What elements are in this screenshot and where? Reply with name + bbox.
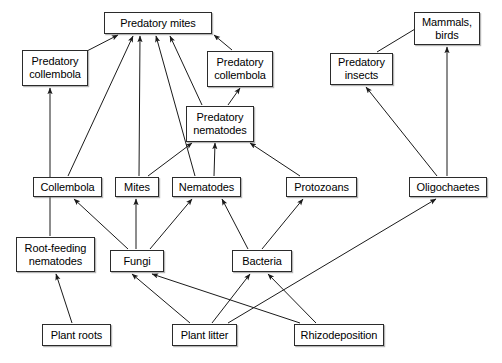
- arrow-predatory-collembola-left-to-predatory-mites: [85, 35, 118, 52]
- node-rhizodeposition[interactable]: Rhizodeposition: [294, 324, 384, 346]
- node-protozoans[interactable]: Protozoans: [286, 177, 357, 197]
- arrow-rhizodeposition-to-fungi: [152, 274, 300, 323]
- node-root-feeding-nematodes[interactable]: Root-feeding nematodes: [16, 237, 95, 272]
- arrow-plant-litter-to-fungi: [132, 274, 190, 323]
- food-web-diagram: Predatory mitesPredatory collembolaPreda…: [0, 0, 502, 363]
- arrow-bacteria-to-protozoans: [262, 199, 303, 249]
- node-plant-litter[interactable]: Plant litter: [172, 324, 237, 346]
- node-predatory-nematodes[interactable]: Predatory nematodes: [186, 106, 254, 142]
- node-collembola[interactable]: Collembola: [33, 177, 102, 197]
- arrow-rhizodeposition-to-bacteria: [268, 274, 316, 323]
- node-oligochaetes[interactable]: Oligochaetes: [409, 177, 487, 197]
- arrow-mites-to-predatory-mites: [139, 36, 140, 176]
- node-predatory-collembola-left[interactable]: Predatory collembola: [22, 50, 88, 86]
- node-plant-roots[interactable]: Plant roots: [42, 324, 111, 346]
- arrow-bacteria-to-nematodes: [222, 199, 248, 249]
- arrow-nematodes-to-predatory-nematodes: [214, 143, 215, 176]
- arrow-oligochaetes-to-predatory-insects: [366, 87, 437, 176]
- node-mammals-birds[interactable]: Mammals, birds: [414, 12, 480, 45]
- node-predatory-insects[interactable]: Predatory insects: [330, 53, 393, 85]
- arrow-predatory-collembola-right-to-predatory-mites: [214, 35, 232, 50]
- node-bacteria[interactable]: Bacteria: [232, 250, 292, 272]
- arrow-plant-litter-to-bacteria: [212, 274, 250, 323]
- arrow-protozoans-to-predatory-nematodes: [250, 143, 300, 176]
- arrow-predatory-nematodes-to-predatory-mites: [170, 36, 202, 105]
- arrow-collembola-to-predatory-nematodes: [148, 143, 192, 176]
- node-mites[interactable]: Mites: [115, 177, 159, 197]
- arrow-plant-roots-to-root-feeding-nematodes: [56, 274, 72, 323]
- node-fungi[interactable]: Fungi: [110, 250, 164, 272]
- node-predatory-mites[interactable]: Predatory mites: [104, 12, 212, 34]
- node-predatory-collembola-right[interactable]: Predatory collembola: [207, 51, 273, 87]
- arrow-fungi-to-nematodes: [150, 199, 192, 249]
- node-nematodes[interactable]: Nematodes: [172, 177, 241, 197]
- arrow-predatory-nematodes-to-predatory-collembola-right: [228, 88, 240, 105]
